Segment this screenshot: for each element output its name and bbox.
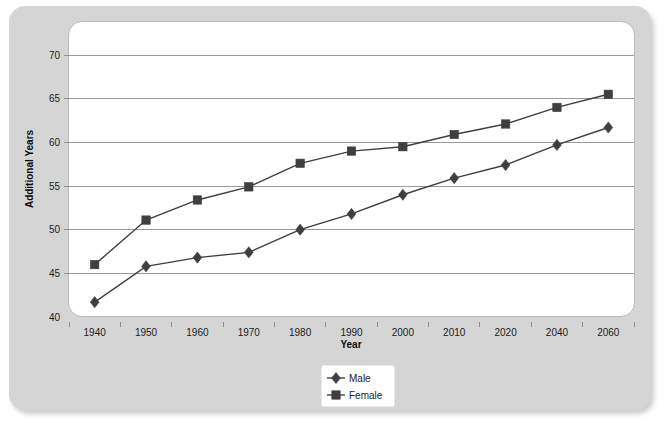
data-point-marker-diamond xyxy=(347,208,356,219)
data-point-marker-square xyxy=(347,147,355,155)
series-line-female xyxy=(95,94,609,264)
y-axis-tick-label: 60 xyxy=(49,137,61,148)
data-point-marker-diamond xyxy=(501,159,510,170)
y-axis-tick-label: 50 xyxy=(49,224,61,235)
data-point-marker-diamond xyxy=(90,297,99,308)
legend-label-female: Female xyxy=(349,390,383,401)
y-axis-tick-label: 70 xyxy=(49,50,61,61)
data-point-marker-square xyxy=(399,143,407,151)
x-axis-title: Year xyxy=(340,339,361,350)
data-point-marker-diamond xyxy=(553,139,562,150)
x-axis-tick-label: 2040 xyxy=(546,327,569,338)
data-point-marker-diamond xyxy=(604,122,613,133)
x-axis-tick-label: 1960 xyxy=(186,327,209,338)
chart-figure: 40455055606570 1940195019601970198019902… xyxy=(0,0,666,429)
x-axis-tick-label: 1950 xyxy=(135,327,158,338)
y-axis-tick-label: 65 xyxy=(49,93,61,104)
x-axis-tick-label: 1970 xyxy=(238,327,261,338)
data-point-marker-square xyxy=(90,260,98,268)
data-point-marker-diamond xyxy=(244,247,253,258)
legend-label-male: Male xyxy=(349,373,371,384)
data-series-group xyxy=(90,90,612,308)
y-axis-tick-label: 45 xyxy=(49,268,61,279)
data-point-marker-square xyxy=(296,159,304,167)
x-axis-tick-label: 2020 xyxy=(494,327,517,338)
data-point-marker-diamond xyxy=(296,224,305,235)
data-point-marker-square xyxy=(193,196,201,204)
data-point-marker-diamond xyxy=(142,261,151,272)
y-axis-title: Additional Years xyxy=(24,129,35,208)
x-axis-tick-label: 1940 xyxy=(84,327,107,338)
data-point-marker-diamond xyxy=(450,173,459,184)
y-axis-tick-label: 40 xyxy=(49,312,61,323)
data-point-marker-diamond xyxy=(193,252,202,263)
x-axis-tick-label: 1990 xyxy=(340,327,363,338)
x-axis-tick-label: 2010 xyxy=(443,327,466,338)
data-point-marker-square xyxy=(450,130,458,138)
data-point-marker-square xyxy=(142,216,150,224)
y-axis-tick-label: 55 xyxy=(49,181,61,192)
x-axis-tick-labels: 1940195019601970198019902000201020202040… xyxy=(84,327,620,338)
data-point-marker-square xyxy=(245,183,253,191)
x-axis-tick-label: 1980 xyxy=(289,327,312,338)
data-point-marker-square xyxy=(332,391,340,399)
gridlines xyxy=(64,55,634,273)
data-point-marker-diamond xyxy=(398,189,407,200)
x-axis-tick-label: 2060 xyxy=(597,327,620,338)
chart-legend: MaleFemale xyxy=(322,366,394,406)
data-series-female xyxy=(90,90,612,269)
data-point-marker-square xyxy=(553,103,561,111)
chart-svg-layer: 40455055606570 1940195019601970198019902… xyxy=(0,0,666,429)
data-point-marker-square xyxy=(604,90,612,98)
x-axis-tick-label: 2000 xyxy=(392,327,415,338)
y-axis-tick-labels: 40455055606570 xyxy=(49,50,61,323)
data-point-marker-square xyxy=(501,120,509,128)
